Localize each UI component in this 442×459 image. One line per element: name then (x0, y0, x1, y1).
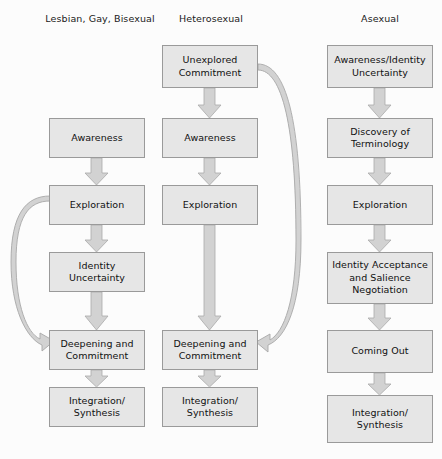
node-ace-integration-synthesis[interactable]: Integration/ Synthesis (327, 395, 433, 443)
node-lgb-exploration[interactable]: Exploration (49, 185, 145, 225)
node-line: Identity (69, 260, 125, 273)
node-line: Awareness (71, 132, 122, 145)
node-line: Deepening and (60, 338, 133, 351)
node-line: Synthesis (352, 419, 408, 432)
node-ace-exploration[interactable]: Exploration (327, 185, 433, 225)
arrow-lgb-exploration-to-identity-uncertainty (85, 225, 108, 252)
identity-development-flowchart: Lesbian, Gay, Bisexual Heterosexual Asex… (0, 0, 442, 459)
node-line: Exploration (353, 199, 408, 212)
node-lgb-integration-synthesis[interactable]: Integration/ Synthesis (49, 387, 145, 427)
arrow-ace-coming-out-to-integration (368, 373, 391, 395)
arrow-het-awareness-to-exploration (198, 158, 221, 185)
node-line: Terminology (350, 138, 410, 151)
node-line: Negotiation (332, 284, 428, 297)
node-line: Identity Acceptance (332, 259, 428, 272)
node-ace-identity-acceptance-and-salience-negotiation[interactable]: Identity Acceptance and Salience Negotia… (327, 252, 433, 304)
arrow-het-deepening-to-integration (198, 370, 221, 387)
arrow-ace-awareness-to-discovery (368, 88, 391, 118)
node-line: Integration/ (352, 407, 408, 420)
node-line: Integration/ (182, 395, 238, 408)
node-lgb-deepening-and-commitment[interactable]: Deepening and Commitment (49, 330, 145, 370)
column-header-asexual: Asexual (361, 13, 399, 24)
node-ace-coming-out[interactable]: Coming Out (327, 330, 433, 373)
arrow-ace-exploration-to-identity-acceptance (368, 225, 391, 252)
arrow-lgb-identity-uncertainty-to-deepening (85, 292, 108, 330)
node-line: Discovery of (350, 126, 410, 139)
arrow-ace-identity-acceptance-to-coming-out (368, 304, 391, 330)
node-line: Exploration (70, 199, 125, 212)
arrow-het-exploration-to-deepening (198, 225, 221, 330)
node-het-integration-synthesis[interactable]: Integration/ Synthesis (162, 387, 258, 427)
node-line: Unexplored (179, 54, 242, 67)
arrow-het-unexplored-bypass-to-deepening (256, 64, 301, 352)
arrow-lgb-deepening-to-integration (85, 370, 108, 387)
node-line: and Salience (332, 272, 428, 285)
node-lgb-awareness[interactable]: Awareness (49, 118, 145, 158)
node-line: Awareness/Identity (334, 54, 426, 67)
node-line: Exploration (183, 199, 238, 212)
node-line: Synthesis (182, 407, 238, 420)
arrow-lgb-exploration-bypass-to-deepening (11, 196, 54, 351)
arrow-lgb-awareness-to-exploration (85, 158, 108, 185)
arrow-ace-discovery-to-exploration (368, 158, 391, 185)
node-ace-awareness-identity-uncertainty[interactable]: Awareness/Identity Uncertainty (327, 45, 433, 88)
node-line: Commitment (60, 350, 133, 363)
column-header-heterosexual: Heterosexual (179, 13, 243, 24)
node-het-awareness[interactable]: Awareness (162, 118, 258, 158)
node-line: Coming Out (351, 345, 408, 358)
node-line: Commitment (179, 67, 242, 80)
node-line: Integration/ (69, 395, 125, 408)
node-lgb-identity-uncertainty[interactable]: Identity Uncertainty (49, 252, 145, 292)
node-het-unexplored-commitment[interactable]: Unexplored Commitment (162, 45, 258, 88)
node-het-deepening-and-commitment[interactable]: Deepening and Commitment (162, 330, 258, 370)
node-line: Commitment (173, 350, 246, 363)
arrow-het-unexplored-to-awareness (198, 88, 221, 118)
node-het-exploration[interactable]: Exploration (162, 185, 258, 225)
node-line: Uncertainty (334, 67, 426, 80)
node-line: Synthesis (69, 407, 125, 420)
node-ace-discovery-of-terminology[interactable]: Discovery of Terminology (327, 118, 433, 158)
node-line: Awareness (184, 132, 235, 145)
node-line: Deepening and (173, 338, 246, 351)
column-header-lgb: Lesbian, Gay, Bisexual (45, 13, 154, 24)
node-line: Uncertainty (69, 272, 125, 285)
